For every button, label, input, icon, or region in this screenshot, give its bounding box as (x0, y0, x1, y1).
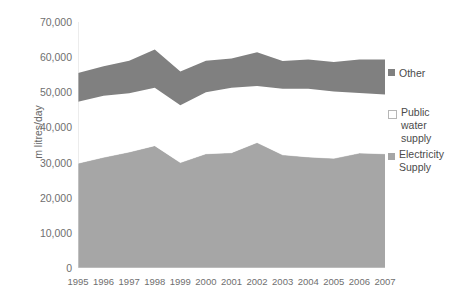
y-tick-label: 10,000 (22, 228, 72, 238)
y-axis-tick-labels: 010,00020,00030,00040,00050,00060,00070,… (22, 0, 72, 307)
legend-label-public-water-supply: Public water supply (401, 106, 431, 145)
legend-label-other: Other (399, 67, 425, 80)
public-water-supply-swatch-icon (388, 110, 397, 119)
y-tick-label: 40,000 (22, 122, 72, 132)
legend-label-electricity-supply: Electricity Supply (399, 148, 444, 174)
x-axis-tick-labels: 1995199619971998199920002001200220032004… (78, 276, 385, 298)
area-band-electricity-supply (78, 143, 385, 268)
other-swatch-icon (388, 69, 395, 76)
y-tick-label: 60,000 (22, 52, 72, 62)
y-tick-label: 20,000 (22, 193, 72, 203)
y-tick-label: 50,000 (22, 87, 72, 97)
y-tick-label: 70,000 (22, 17, 72, 27)
area-band-public-water-supply (78, 86, 385, 163)
y-tick-label: 0 (22, 263, 72, 273)
legend-item-public-water-supply[interactable]: Public water supply (388, 106, 431, 145)
legend-item-electricity-supply[interactable]: Electricity Supply (388, 148, 444, 174)
y-tick-label: 30,000 (22, 158, 72, 168)
legend-item-other[interactable]: Other (388, 64, 425, 82)
area-series-svg (78, 22, 385, 268)
x-tick-label: 2007 (370, 276, 400, 287)
electricity-supply-swatch-icon (388, 153, 395, 160)
stacked-area-chart: m litres/day 010,00020,00030,00040,00050… (0, 0, 467, 307)
plot-area (78, 22, 385, 268)
